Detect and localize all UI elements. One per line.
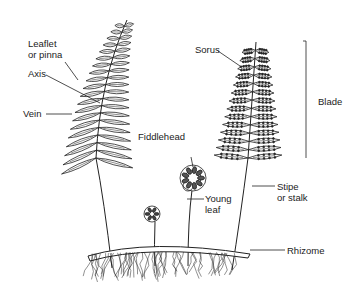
sorus-dot — [242, 61, 244, 63]
sorus-dot — [266, 69, 268, 71]
sorus-dot — [241, 74, 243, 76]
sorus-dot — [262, 82, 264, 84]
sorus-dot — [258, 122, 260, 124]
sorus-dot — [237, 86, 239, 88]
sorus-dot — [232, 125, 234, 127]
sorus-dot — [258, 130, 260, 132]
blade-bracket — [303, 41, 306, 158]
sorus-dot — [241, 126, 243, 128]
sorus-dot — [244, 77, 246, 79]
label-young-leaf: Young leaf — [205, 193, 232, 215]
sorus-dot — [236, 122, 238, 124]
sorus-dot — [258, 68, 260, 70]
sorus-dot — [251, 52, 253, 54]
sorus-dot — [246, 85, 248, 87]
root — [142, 252, 148, 277]
sorus-dot — [242, 58, 244, 60]
sorus-dot — [266, 98, 268, 100]
sorus-dot — [262, 126, 264, 128]
sorus-dot — [233, 98, 235, 100]
sorus-dot — [244, 57, 246, 59]
sorus-dot — [272, 133, 274, 135]
label-leaflet-line1: Leaflet — [28, 38, 62, 49]
root — [175, 252, 181, 274]
sorus-dot — [227, 146, 229, 148]
sorus-dot — [269, 90, 271, 92]
sorus-dot — [228, 122, 230, 124]
sorus-dot — [264, 69, 266, 71]
label-vein: Vein — [23, 108, 42, 119]
left-frond — [62, 20, 134, 268]
sorus-dot — [233, 118, 235, 120]
sorus-dot — [246, 69, 248, 71]
sorus-dot — [230, 133, 232, 135]
sorus-dot — [236, 82, 238, 84]
sorus-dot — [266, 58, 268, 60]
root — [144, 252, 150, 279]
sorus-dot — [248, 52, 250, 54]
fiddlehead-segment — [198, 176, 205, 180]
sorus-dot — [235, 90, 237, 92]
label-leaflet-line2: or pinna — [28, 49, 62, 60]
sorus-dot — [246, 52, 248, 54]
sorus-dot — [240, 134, 242, 136]
sorus-dot — [243, 85, 245, 87]
sorus-dot — [222, 149, 224, 151]
sorus-dot — [267, 122, 269, 124]
sorus-dot — [242, 93, 244, 95]
sorus-dot — [245, 89, 247, 91]
sorus-dot — [268, 149, 270, 151]
sorus-dot — [266, 110, 268, 112]
root — [159, 252, 163, 276]
sorus-dot — [265, 85, 267, 87]
sorus-dot — [220, 153, 222, 155]
sorus-dot — [258, 93, 260, 95]
sorus-dot — [231, 106, 233, 108]
sorus-dot — [268, 138, 270, 140]
sorus-dot — [273, 138, 275, 140]
sorus-dot — [268, 82, 270, 84]
sorus-dot — [243, 69, 245, 71]
sorus-dot — [263, 52, 265, 54]
sorus-dot — [258, 126, 260, 128]
sorus-dot — [273, 141, 275, 143]
leader-leaflet — [65, 62, 78, 80]
sorus-dot — [267, 77, 269, 79]
sorus-dot — [247, 77, 249, 79]
sorus-dot — [248, 68, 250, 70]
sorus-dot — [258, 158, 260, 160]
sorus-dot — [243, 106, 245, 108]
sorus-dot — [244, 53, 246, 55]
sorus-dot — [258, 142, 260, 144]
label-young-leaf-line2: leaf — [205, 204, 232, 215]
sorus-dot — [259, 48, 261, 50]
sorus-dot — [239, 106, 241, 108]
sorus-dot — [264, 74, 266, 76]
sorus-dot — [238, 93, 240, 95]
sorus-dot — [262, 93, 264, 95]
sorus-dot — [269, 98, 271, 100]
sorus-dot — [258, 98, 260, 100]
sorus-dot — [258, 85, 260, 87]
sorus-dot — [261, 69, 263, 71]
sorus-dot — [236, 158, 238, 160]
sorus-dot — [263, 134, 265, 136]
sorus-dot — [238, 146, 240, 148]
sorus-dot — [246, 81, 248, 83]
sorus-dot — [257, 154, 259, 156]
sorus-dot — [262, 122, 264, 124]
sorus-dot — [238, 90, 240, 92]
sorus-dot — [242, 90, 244, 92]
label-sorus: Sorus — [195, 44, 220, 55]
sorus-dot — [271, 125, 273, 127]
root — [198, 252, 201, 276]
sorus-dot — [239, 142, 241, 144]
sorus-dot — [262, 90, 264, 92]
sorus-dot — [232, 150, 234, 152]
sorus-dot — [258, 101, 260, 103]
root — [140, 252, 143, 277]
sorus-dot — [229, 141, 231, 143]
sorus-dot — [261, 85, 263, 87]
sorus-dot — [259, 57, 261, 59]
root — [211, 253, 216, 276]
